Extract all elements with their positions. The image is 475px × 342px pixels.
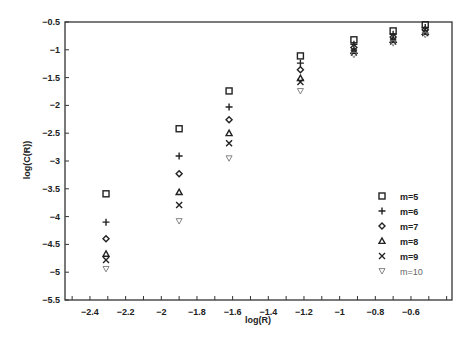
x-axis-ticks: −2.4−2.2−2−1.8−1.6−1.4−1.2−1−0.8−0.6 <box>72 296 447 317</box>
y-tick-label: −2.5 <box>42 128 60 138</box>
y-tick-label: −5 <box>50 267 60 277</box>
legend-item: m=7 <box>379 222 418 232</box>
x-marker-icon <box>379 253 385 259</box>
square-marker-icon <box>379 193 385 199</box>
legend-label: m=5 <box>400 192 418 202</box>
y-tick-label: −4.5 <box>42 239 60 249</box>
scatter-chart: −2.4−2.2−2−1.8−1.6−1.4−1.2−1−0.8−0.6 −0.… <box>0 0 475 342</box>
legend-label: m=8 <box>400 237 418 247</box>
y-tick-label: −1 <box>50 45 60 55</box>
square-marker-icon <box>226 88 232 94</box>
x-tick-label: −2 <box>156 307 166 317</box>
diamond-marker-icon <box>103 236 109 242</box>
legend-item: m=9 <box>379 252 418 262</box>
y-tick-label: −4 <box>50 212 60 222</box>
triangle-down-marker-icon <box>176 219 182 224</box>
diamond-marker-icon <box>379 223 385 229</box>
plus-marker-icon <box>379 208 386 215</box>
y-tick-label: −3 <box>50 156 60 166</box>
square-marker-icon <box>297 53 303 59</box>
square-marker-icon <box>176 126 182 132</box>
legend-item: m=8 <box>379 237 418 247</box>
x-tick-label: −2.4 <box>81 307 99 317</box>
plus-marker-icon <box>226 104 233 111</box>
y-tick-label: −2 <box>50 100 60 110</box>
y-tick-label: −3.5 <box>42 184 60 194</box>
triangle-up-marker-icon <box>379 238 385 243</box>
y-tick-label: −1.5 <box>42 73 60 83</box>
triangle-up-marker-icon <box>103 251 109 256</box>
legend-item: m=5 <box>379 192 418 202</box>
x-marker-icon <box>176 202 182 208</box>
triangle-down-marker-icon <box>297 89 303 94</box>
diamond-marker-icon <box>297 67 303 73</box>
x-tick-label: −1 <box>335 307 345 317</box>
y-tick-label: −0.5 <box>42 17 60 27</box>
data-points <box>103 22 429 272</box>
x-tick-label: −2.2 <box>117 307 135 317</box>
x-tick-label: −1.8 <box>188 307 206 317</box>
triangle-up-marker-icon <box>226 130 232 135</box>
legend-label: m=7 <box>400 222 418 232</box>
plus-marker-icon <box>103 219 110 226</box>
x-tick-label: −1.6 <box>224 307 242 317</box>
diamond-marker-icon <box>226 117 232 123</box>
legend-item: m=10 <box>379 267 423 277</box>
triangle-down-marker-icon <box>103 266 109 271</box>
diamond-marker-icon <box>176 171 182 177</box>
legend: m=5m=6m=7m=8m=9m=10 <box>379 192 423 277</box>
x-tick-label: −0.8 <box>366 307 384 317</box>
plus-marker-icon <box>297 60 304 67</box>
x-marker-icon <box>226 140 232 146</box>
plus-marker-icon <box>176 152 183 159</box>
triangle-down-marker-icon <box>379 269 385 274</box>
legend-label: m=10 <box>400 267 423 277</box>
y-tick-label: −5.5 <box>42 295 60 305</box>
x-tick-label: −1.2 <box>295 307 313 317</box>
legend-label: m=9 <box>400 252 418 262</box>
y-axis-label: log(C(R)) <box>22 141 32 179</box>
x-axis-label: log(R) <box>245 315 271 325</box>
square-marker-icon <box>103 191 109 197</box>
x-tick-label: −0.6 <box>402 307 420 317</box>
legend-item: m=6 <box>379 207 419 217</box>
triangle-up-marker-icon <box>176 189 182 194</box>
legend-label: m=6 <box>400 207 418 217</box>
triangle-down-marker-icon <box>226 156 232 161</box>
x-marker-icon <box>103 257 109 263</box>
plot-frame <box>65 22 452 300</box>
